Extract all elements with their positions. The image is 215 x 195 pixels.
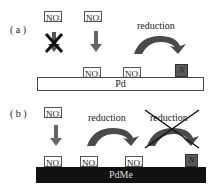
adsorbed-nitrate-b-2: NO3-: [80, 156, 98, 167]
species-text: NO: [46, 13, 59, 23]
panel-a-label: ( a ): [10, 24, 26, 35]
nitrate-species-b: NO3-: [44, 107, 62, 118]
species-sup: -: [59, 14, 61, 19]
reduction-label-a: reduction: [137, 20, 175, 31]
species-sup: -: [138, 70, 140, 75]
nitrogen-product-b: N: [185, 154, 198, 167]
species-sup: -: [99, 14, 101, 19]
nitrate-species-a: NO3-: [44, 11, 62, 22]
species-sup: -: [95, 159, 97, 164]
species-sup: -: [140, 159, 142, 164]
reduction-label-b-1: reduction: [88, 112, 126, 123]
pd-substrate: Pd: [37, 77, 204, 91]
nitrite-species-a: NO2-: [84, 11, 102, 22]
adsorbed-nitrite-b: NO2-: [125, 156, 143, 167]
nitrogen-product-a: N: [175, 64, 188, 77]
species-sup: -: [59, 159, 61, 164]
blocked-reduction-arrow-icon: [145, 108, 201, 150]
reduction-arrow-icon: [132, 34, 188, 56]
species-text: NO: [46, 109, 59, 119]
blocked-arrow-icon: [44, 30, 64, 54]
panel-b-label: ( b ): [10, 108, 27, 119]
pdme-substrate: PdMe: [36, 167, 206, 183]
adsorbed-nitrate-b-1: NO3-: [44, 156, 62, 167]
species-sup: -: [98, 70, 100, 75]
down-arrow-icon: [50, 124, 62, 148]
species-sup: -: [59, 110, 61, 115]
down-arrow-icon: [90, 30, 102, 54]
reduction-arrow-icon: [85, 126, 141, 148]
species-text: NO: [86, 13, 99, 23]
